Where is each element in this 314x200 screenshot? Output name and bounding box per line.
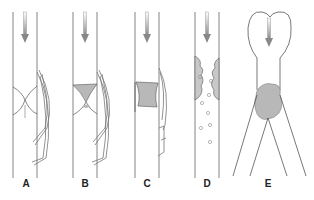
diagram-canvas <box>0 0 314 200</box>
panel-a <box>13 12 50 178</box>
branch-inner-left <box>250 118 268 176</box>
valve-cusp-upper <box>13 86 37 100</box>
flow-arrow-icon <box>203 12 211 43</box>
flow-arrow-icon <box>21 12 29 43</box>
panel-d <box>195 12 219 178</box>
panel-label-b: B <box>75 178 95 189</box>
lodged-embolus <box>255 84 282 120</box>
flow-arrow-icon <box>143 12 151 43</box>
flow-arrow-icon <box>81 12 89 43</box>
branch-outer-right <box>280 95 306 176</box>
flow-arrow-icon <box>265 18 273 47</box>
panel-label-d: D <box>197 178 217 189</box>
panel-e <box>233 12 306 176</box>
panel-c <box>135 12 167 178</box>
thrombus-upper <box>73 84 97 102</box>
panel-label-c: C <box>137 178 157 189</box>
panel-b <box>73 12 110 178</box>
occlusive-thrombus <box>136 82 158 107</box>
panel-label-a: A <box>16 178 36 189</box>
branch-inner-right <box>268 118 287 176</box>
collateral-channel <box>32 70 50 165</box>
fragmenting-thrombus-right <box>212 58 220 100</box>
panel-label-e: E <box>258 178 278 189</box>
